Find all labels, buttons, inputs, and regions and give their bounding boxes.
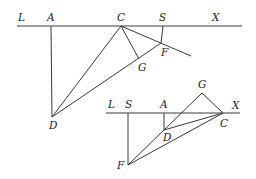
label-S-bottom: S (125, 98, 132, 110)
figure-bottom: L S A G X C D F (106, 78, 240, 171)
label-D-bottom: D (162, 131, 172, 143)
label-X-bottom: X (231, 99, 240, 111)
label-L-top: L (17, 11, 25, 23)
line-AD-top (51, 26, 52, 117)
line-GC-bottom (202, 93, 223, 113)
line-CF-extended-top (121, 26, 191, 56)
line-SF-top (161, 26, 163, 43)
label-X-top: X (211, 11, 220, 23)
label-F-top: F (160, 46, 169, 58)
label-G-top: G (138, 61, 146, 73)
label-D-top: D (48, 119, 58, 131)
line-DF-top (52, 43, 161, 117)
label-C-bottom: C (220, 117, 228, 129)
label-S-top: S (159, 11, 166, 23)
geometry-diagram: L A C S X F G D L S A G X C D F (0, 0, 256, 179)
line-FC-bottom (128, 113, 223, 165)
label-F-bottom: F (116, 159, 125, 171)
label-A-top: A (46, 11, 55, 23)
line-CG-top (121, 26, 139, 59)
label-L-bottom: L (107, 98, 115, 110)
label-A-bottom: A (159, 98, 168, 110)
label-G-bottom: G (198, 78, 206, 90)
label-C-top: C (117, 11, 125, 23)
